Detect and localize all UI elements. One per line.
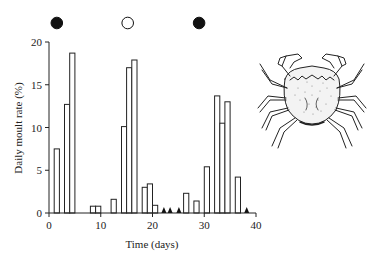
- moult-rate-chart: 05101520 010203040 Time (days) Daily mou…: [0, 0, 380, 265]
- bar: [220, 123, 225, 213]
- x-tick-label: 30: [199, 219, 211, 231]
- bar: [111, 199, 116, 213]
- bar: [235, 177, 240, 213]
- bar: [184, 193, 189, 213]
- bar-series: [54, 53, 240, 213]
- x-tick-label: 10: [95, 219, 107, 231]
- bar: [90, 206, 95, 213]
- new-moon-icon: [51, 17, 63, 29]
- triangle-marker-icon: [168, 207, 173, 213]
- y-tick-label: 5: [37, 164, 43, 176]
- bar: [127, 68, 132, 213]
- y-tick-label: 10: [31, 122, 43, 134]
- moon-phase-markers: [51, 17, 205, 29]
- x-tick-label: 20: [147, 219, 159, 231]
- bar: [65, 104, 70, 213]
- bar: [142, 187, 147, 213]
- bar: [147, 184, 152, 213]
- bar: [54, 149, 59, 213]
- full-moon-icon: [122, 17, 134, 29]
- triangle-marker-icon: [161, 207, 166, 213]
- bar: [225, 102, 230, 213]
- triangle-marker-icon: [244, 207, 249, 213]
- crab-icon: [258, 54, 366, 148]
- y-tick-label: 0: [37, 207, 43, 219]
- y-tick-label: 20: [31, 36, 43, 48]
- bar: [122, 127, 127, 213]
- x-tick-label: 0: [46, 219, 52, 231]
- bar: [96, 206, 101, 213]
- y-tick-label: 15: [31, 79, 43, 91]
- y-tick-labels: 05101520: [31, 36, 43, 219]
- x-tick-labels: 010203040: [46, 219, 262, 231]
- x-axis-title: Time (days): [125, 238, 178, 251]
- x-tick-label: 40: [251, 219, 263, 231]
- bar: [194, 201, 199, 213]
- bar: [215, 96, 220, 213]
- bar: [204, 167, 209, 213]
- y-axis-title: Daily moult rate (%): [12, 82, 25, 174]
- bar: [132, 60, 137, 213]
- new-moon-icon: [193, 17, 205, 29]
- bar: [70, 53, 75, 213]
- bar: [153, 205, 158, 213]
- triangle-marker-icon: [176, 207, 181, 213]
